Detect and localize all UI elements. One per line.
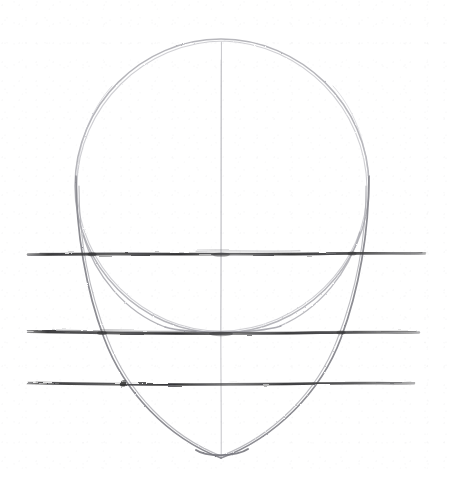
eye-line-right-intersection <box>348 251 357 255</box>
mouth-line-jaw-intersection-accent <box>120 380 126 386</box>
nose-line-center-intersection <box>209 331 233 336</box>
eye-line-center-intersection <box>212 252 230 256</box>
nose-line-right-intersection <box>337 330 346 334</box>
sketch-canvas <box>0 0 449 479</box>
paper-background <box>0 0 449 479</box>
vertical-center-line <box>221 42 222 458</box>
nose-line-left-intersection <box>97 331 107 335</box>
head-construction-drawing <box>0 0 449 479</box>
eye-line-left-intersection <box>88 252 97 256</box>
